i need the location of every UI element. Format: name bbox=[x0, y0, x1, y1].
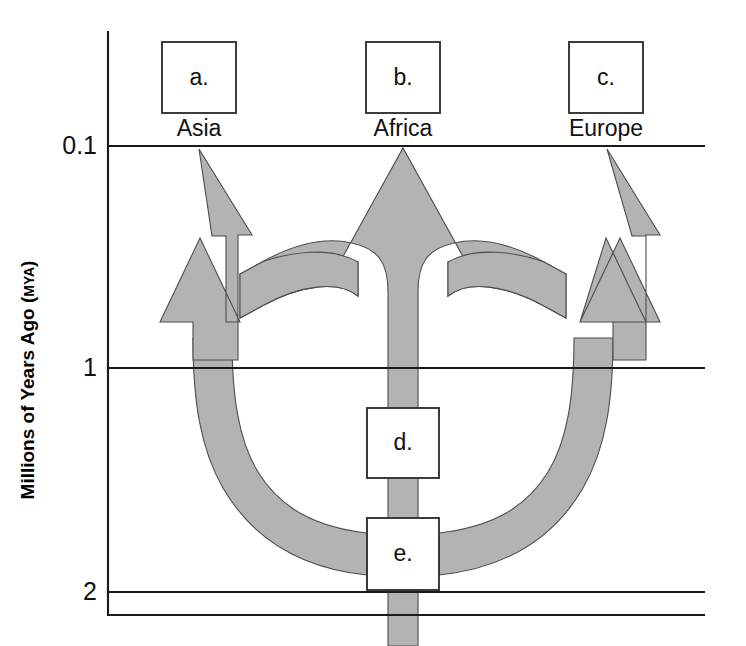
box-c-group[interactable]: c. bbox=[569, 42, 643, 113]
box-d-label: d. bbox=[393, 429, 412, 455]
tick-label-1: 1 bbox=[83, 353, 97, 381]
phylogeny-diagram: 0.1 1 2 Millions of Years Ago (MYA) a. A… bbox=[0, 0, 746, 646]
box-e-group[interactable]: e. bbox=[367, 518, 439, 590]
box-b-label: b. bbox=[393, 64, 412, 90]
region-label-europe: Europe bbox=[569, 115, 643, 141]
asia-branch-band bbox=[193, 338, 367, 575]
europe-flow-arrow bbox=[580, 149, 660, 360]
y-axis-title: Millions of Years Ago (MYA) bbox=[17, 261, 38, 500]
region-label-africa: Africa bbox=[374, 115, 433, 141]
box-b-group[interactable]: b. bbox=[366, 42, 440, 113]
y-axis-title-group: Millions of Years Ago (MYA) bbox=[17, 261, 38, 500]
y-axis-title-paren-close: ) bbox=[17, 261, 38, 267]
box-a-label: a. bbox=[189, 64, 208, 90]
region-label-asia: Asia bbox=[177, 115, 222, 141]
box-a-group[interactable]: a. bbox=[162, 42, 236, 113]
y-axis-title-paren-open: ( bbox=[17, 296, 38, 308]
asia-connector-band bbox=[240, 252, 358, 318]
box-e-label: e. bbox=[393, 540, 412, 566]
europe-branch-band bbox=[439, 338, 613, 575]
box-d-group[interactable]: d. bbox=[367, 408, 439, 478]
y-axis-title-unit: MYA bbox=[21, 267, 37, 297]
box-c-label: c. bbox=[597, 64, 615, 90]
asia-flow-arrow bbox=[160, 149, 252, 360]
europe-connector-band bbox=[448, 252, 566, 318]
tick-label-group: 0.1 1 2 bbox=[62, 131, 97, 605]
tick-label-2: 2 bbox=[83, 577, 97, 605]
y-axis-title-main: Millions of Years Ago bbox=[17, 308, 38, 499]
figure-canvas: 0.1 1 2 Millions of Years Ago (MYA) a. A… bbox=[0, 0, 746, 646]
tick-label-0-1: 0.1 bbox=[62, 131, 97, 159]
